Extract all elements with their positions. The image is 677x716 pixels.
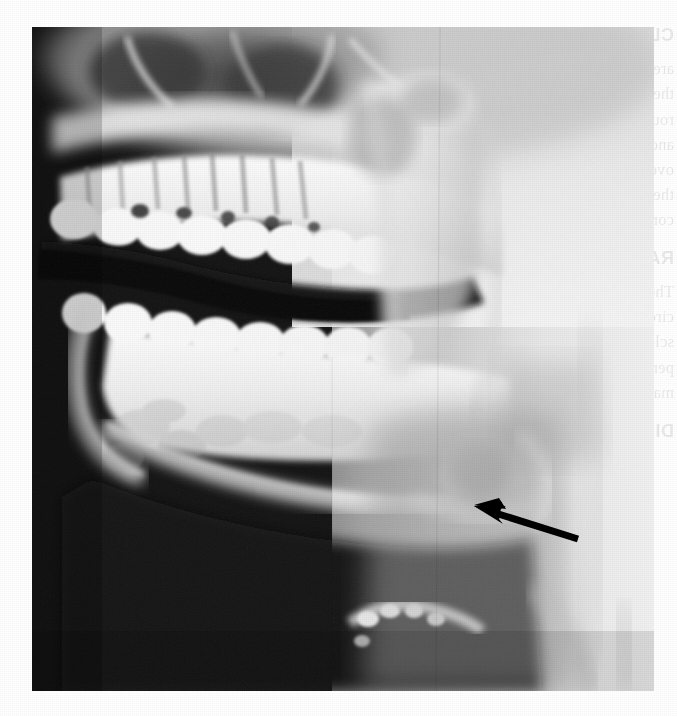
panoramic-radiograph-image [32, 27, 654, 691]
figure-page: CLINICAL FEATURES are usually asymptomat… [0, 0, 677, 716]
